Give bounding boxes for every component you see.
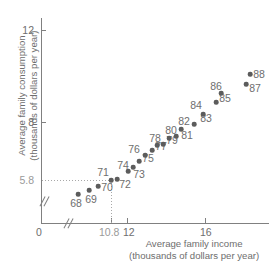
- x-tick-12: [127, 218, 128, 223]
- data-point-label-88: 88: [253, 68, 265, 80]
- data-point-label-87: 87: [249, 82, 261, 94]
- x-tick-16: [205, 218, 206, 223]
- data-point-74: [131, 165, 136, 170]
- x-axis-title-line1: Average family income: [146, 238, 243, 249]
- data-point-84: [201, 112, 206, 117]
- data-point-label-86: 86: [210, 80, 222, 92]
- data-point-label-76: 76: [128, 143, 140, 155]
- data-point-label-71: 71: [97, 166, 109, 178]
- data-point-79: [161, 142, 166, 147]
- x-tick-label-12: 12: [123, 226, 135, 238]
- data-point-70: [96, 184, 101, 189]
- y-tick-8: [41, 122, 46, 123]
- data-point-label-73: 73: [133, 168, 145, 180]
- x-axis-title: Average family income (thousands of doll…: [129, 238, 259, 261]
- data-point-75: [137, 159, 142, 164]
- data-point-82: [179, 127, 184, 132]
- y-axis-title-line2: (thousands of dollars per year): [28, 31, 39, 161]
- data-point-label-69: 69: [85, 193, 97, 205]
- data-point-81: [174, 134, 179, 139]
- data-point-69: [87, 188, 92, 193]
- data-point-label-68: 68: [70, 197, 82, 209]
- data-point-label-78: 78: [149, 132, 161, 144]
- data-point-label-82: 82: [178, 115, 190, 127]
- scatter-chart: 12 8 5.8 10.8 12 16 0 Average family con…: [0, 0, 271, 262]
- data-point-83: [192, 122, 197, 127]
- data-point-68: [76, 192, 81, 197]
- data-point-label-72: 72: [119, 178, 131, 190]
- data-point-71: [109, 178, 114, 183]
- y-axis-line: [41, 18, 42, 223]
- data-point-label-74: 74: [117, 159, 129, 171]
- data-point-76: [143, 153, 148, 158]
- x-axis-title-line2: (thousands of dollars per year): [129, 250, 259, 261]
- y-axis-title-line1: Average family consumption: [16, 35, 27, 155]
- origin-label: 0: [36, 226, 42, 238]
- y-tick-12: [41, 30, 46, 31]
- x-axis-line: [41, 223, 269, 224]
- data-point-88: [248, 72, 253, 77]
- data-point-87: [244, 82, 249, 87]
- data-point-label-70: 70: [101, 181, 113, 193]
- x-tick-label-10-8: 10.8: [99, 226, 119, 238]
- x-tick-label-16: 16: [200, 226, 212, 238]
- data-point-85: [214, 100, 219, 105]
- y-tick-label-5-8: 5.8: [2, 174, 34, 186]
- data-point-label-84: 84: [190, 99, 202, 111]
- y-axis-title: Average family consumption (thousands of…: [16, 21, 39, 171]
- data-point-80: [167, 136, 172, 141]
- data-point-77: [150, 148, 155, 153]
